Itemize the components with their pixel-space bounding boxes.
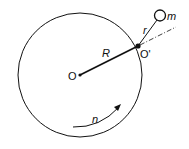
label-rotation-n: n <box>92 113 98 125</box>
label-mass-m: m <box>167 10 176 22</box>
rotating-disk-diagram: O R O' r m n <box>0 0 189 149</box>
label-center-O: O <box>68 70 77 82</box>
label-pivot-O-prime: O' <box>140 48 151 60</box>
rotation-arrowhead <box>114 104 121 111</box>
mass-circle <box>155 10 166 21</box>
label-arm-r: r <box>143 24 148 36</box>
center-point <box>78 73 81 76</box>
label-radius-R: R <box>102 47 110 59</box>
arm-line <box>138 20 157 46</box>
